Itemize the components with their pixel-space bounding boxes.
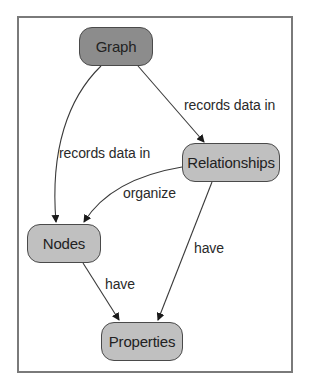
node-graph: Graph: [79, 27, 153, 66]
edge-graph-to-nodes: [55, 66, 101, 222]
node-properties: Properties: [101, 322, 183, 361]
node-nodes: Nodes: [27, 224, 101, 263]
node-properties-label: Properties: [109, 333, 175, 350]
edge-label-graph-to-nodes: records data in: [59, 145, 150, 161]
node-nodes-label: Nodes: [43, 235, 85, 252]
edge-label-relationships-to-nodes: organize: [123, 185, 176, 201]
node-relationships-label: Relationships: [187, 154, 274, 171]
node-relationships: Relationships: [182, 143, 280, 182]
edge-label-relationships-to-properties: have: [194, 240, 224, 256]
node-graph-label: Graph: [96, 38, 137, 55]
edge-label-graph-to-relationships: records data in: [184, 97, 275, 113]
edge-label-nodes-to-properties: have: [105, 276, 135, 292]
